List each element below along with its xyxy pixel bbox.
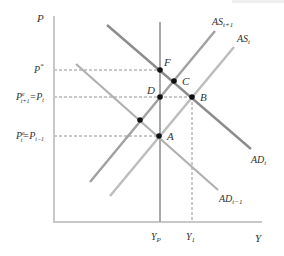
y-axis-label: P bbox=[36, 12, 44, 24]
point-unlabeled bbox=[137, 117, 143, 123]
as-t1-curve bbox=[90, 31, 215, 182]
tick-label-y1: Y1 bbox=[186, 231, 195, 244]
label-ad-t-1: ADt−1 bbox=[218, 193, 243, 206]
label-point-a: A bbox=[166, 130, 174, 142]
point-c bbox=[171, 78, 177, 84]
point-a bbox=[156, 133, 162, 139]
tick-label-yp: YP bbox=[151, 231, 162, 244]
point-f bbox=[157, 67, 163, 73]
diagram-svg: F C D B A ASt+1 ASt ADt ADt−1 P Y YP Y1 … bbox=[0, 0, 284, 256]
ad-t-curve bbox=[107, 25, 251, 149]
label-ad-t: ADt bbox=[250, 154, 267, 167]
ad-as-diagram: F C D B A ASt+1 ASt ADt ADt−1 P Y YP Y1 … bbox=[0, 0, 284, 256]
label-point-d: D bbox=[146, 84, 155, 96]
tick-label-pe-t: Pet=Pt−1 bbox=[15, 130, 44, 143]
point-b bbox=[189, 94, 195, 100]
tick-label-pstar: P* bbox=[33, 62, 44, 75]
label-as-t: ASt bbox=[236, 33, 251, 46]
label-point-c: C bbox=[182, 75, 190, 87]
label-as-t1: ASt+1 bbox=[211, 16, 233, 29]
label-point-f: F bbox=[163, 56, 171, 68]
x-axis-label: Y bbox=[255, 232, 263, 244]
point-d bbox=[157, 94, 163, 100]
ad-t-1-curve bbox=[76, 64, 218, 190]
tick-label-pe-t1: Pet+1=Pt bbox=[15, 91, 44, 104]
label-point-b: B bbox=[200, 91, 207, 103]
as-t-curve bbox=[110, 47, 234, 196]
